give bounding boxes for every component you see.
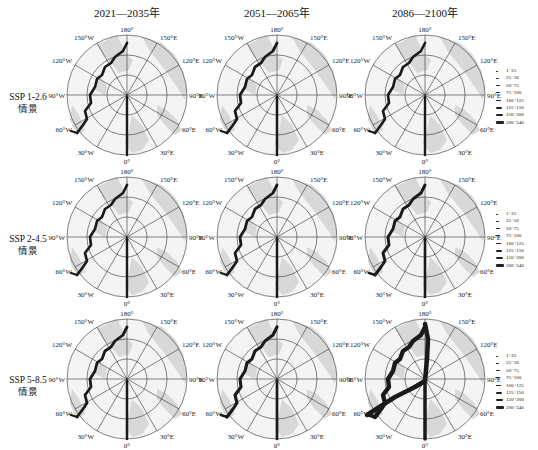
- tick-label-e150: 150°E: [160, 176, 178, 184]
- line-width-swatch-icon: [496, 383, 505, 388]
- line-width-swatch-icon: [496, 83, 505, 88]
- tick-label-w150: 150°W: [372, 176, 392, 184]
- legend-label: 75~100: [506, 89, 521, 96]
- tick-label-w60: 60°W: [206, 410, 223, 418]
- tick-label-w60: 60°W: [206, 268, 223, 276]
- legend-label: 75~100: [506, 374, 521, 381]
- tick-label-e150: 150°E: [458, 176, 476, 184]
- tick-label-w30: 30°W: [228, 433, 245, 441]
- tick-label-e150: 150°E: [458, 34, 476, 42]
- legend-label: 200~240: [506, 262, 524, 269]
- tick-label-t180: 180°: [270, 168, 284, 176]
- row-label-ssp585: SSP 5-8.5 情景: [0, 374, 56, 398]
- legend-label: 150~200: [506, 254, 524, 261]
- tick-label-e30: 30°E: [160, 433, 174, 441]
- column-title-3: 2086—2100年: [350, 4, 500, 20]
- row-label-line1: SSP 1-2.6: [0, 91, 56, 103]
- legend-label: 1~25: [506, 352, 516, 359]
- line-width-swatch-icon: [496, 241, 505, 246]
- polar-panel-r2-c2: 180° 150°E 120°E 90°E 60°E 30°E 0° 30°W …: [202, 162, 352, 312]
- line-width-swatch-icon: [496, 226, 505, 231]
- tick-label-w90: 90°W: [199, 234, 216, 242]
- legend-item: 100~125: [496, 382, 524, 389]
- tick-label-w150: 150°W: [224, 318, 244, 326]
- legend-label: 25~50: [506, 359, 519, 366]
- column-title-1: 2021—2035年: [52, 4, 202, 20]
- column-title-2: 2051—2065年: [202, 4, 352, 20]
- legend-label: 50~75: [506, 82, 519, 89]
- tick-label-w90: 90°W: [49, 234, 66, 242]
- tick-label-w90: 90°W: [49, 92, 66, 100]
- line-width-swatch-icon: [496, 353, 505, 358]
- tick-label-e120: 120°E: [480, 341, 498, 349]
- tick-label-w60: 60°W: [206, 126, 223, 134]
- legend-label: 125~150: [506, 389, 524, 396]
- tick-label-w150: 150°W: [74, 34, 94, 42]
- legend-item: 50~75: [496, 367, 524, 374]
- legend-item: 25~50: [496, 74, 524, 81]
- tick-label-t180: 180°: [270, 310, 284, 318]
- legend-label: 50~75: [506, 225, 519, 232]
- tick-label-w90: 90°W: [347, 92, 364, 100]
- legend-item: 1~25: [496, 67, 524, 74]
- row-label-ssp245: SSP 2-4.5 情景: [0, 233, 56, 257]
- tick-label-t180: 180°: [120, 310, 134, 318]
- line-width-swatch-icon: [496, 390, 505, 395]
- legend-label: 200~240: [506, 119, 524, 126]
- legend-item: 150~200: [496, 254, 524, 261]
- tick-label-e60: 60°E: [182, 410, 196, 418]
- tick-label-t180: 180°: [418, 310, 432, 318]
- tick-label-e120: 120°E: [332, 341, 350, 349]
- tick-label-e150: 150°E: [458, 318, 476, 326]
- tick-label-e60: 60°E: [182, 268, 196, 276]
- polar-panel-r2-c3: 180° 150°E 120°E 90°E 60°E 30°E 0° 30°W …: [350, 162, 500, 312]
- tick-label-e30: 30°E: [310, 291, 324, 299]
- legend-item: 100~125: [496, 240, 524, 247]
- tick-label-t180: 180°: [418, 26, 432, 34]
- polar-panel-r2-c1: 180° 150°E 120°E 90°E 60°E 30°E 0° 30°W …: [52, 162, 202, 312]
- tick-label-e30: 30°E: [160, 291, 174, 299]
- tick-label-e30: 30°E: [458, 433, 472, 441]
- line-width-swatch-icon: [496, 211, 505, 216]
- legend-label: 100~125: [506, 382, 524, 389]
- legend-item: 200~240: [496, 262, 524, 269]
- tick-label-w30: 30°W: [78, 149, 95, 157]
- legend-item: 125~150: [496, 247, 524, 254]
- legend-label: 125~150: [506, 247, 524, 254]
- tick-label-w30: 30°W: [376, 433, 393, 441]
- tick-label-w120: 120°W: [52, 57, 72, 65]
- tick-label-w30: 30°W: [376, 149, 393, 157]
- line-width-swatch-icon: [496, 398, 505, 403]
- tick-label-e60: 60°E: [332, 126, 346, 134]
- legend-item: 125~150: [496, 104, 524, 111]
- legend-label: 75~100: [506, 232, 521, 239]
- polar-panel-r3-c2: 180° 150°E 120°E 90°E 60°E 30°E 0° 30°W …: [202, 304, 352, 450]
- row-label-line2: 情景: [0, 103, 56, 115]
- legend-row-3: 1~2525~5050~7575~100100~125125~150150~20…: [496, 352, 524, 411]
- polar-map: 180° 150°E 120°E 90°E 60°E 30°E 0° 30°W …: [202, 20, 352, 170]
- legend-item: 75~100: [496, 374, 524, 381]
- tick-label-e120: 120°E: [480, 57, 498, 65]
- tick-label-w30: 30°W: [228, 291, 245, 299]
- tick-label-w120: 120°W: [202, 199, 222, 207]
- line-width-swatch-icon: [496, 76, 505, 81]
- tick-label-w90: 90°W: [347, 234, 364, 242]
- legend-item: 25~50: [496, 217, 524, 224]
- line-width-swatch-icon: [496, 375, 505, 380]
- polar-map: 180° 150°E 120°E 90°E 60°E 30°E 0° 30°W …: [350, 20, 500, 170]
- polar-map: 180° 150°E 120°E 90°E 60°E 30°E 0° 30°W …: [52, 162, 202, 312]
- tick-label-e150: 150°E: [310, 176, 328, 184]
- tick-label-w90: 90°W: [199, 376, 216, 384]
- legend-label: 25~50: [506, 217, 519, 224]
- tick-label-t180: 180°: [270, 26, 284, 34]
- legend-item: 75~100: [496, 89, 524, 96]
- polar-panel-r1-c2: 180° 150°E 120°E 90°E 60°E 30°E 0° 30°W …: [202, 20, 352, 170]
- line-width-swatch-icon: [496, 219, 505, 224]
- tick-label-w30: 30°W: [228, 149, 245, 157]
- polar-panel-r3-c1: 180° 150°E 120°E 90°E 60°E 30°E 0° 30°W …: [52, 304, 202, 450]
- row-label-ssp126: SSP 1-2.6 情景: [0, 91, 56, 115]
- tick-label-w150: 150°W: [224, 34, 244, 42]
- tick-label-e150: 150°E: [160, 318, 178, 326]
- polar-map: 180° 150°E 120°E 90°E 60°E 30°E 0° 30°W …: [202, 304, 352, 450]
- legend-item: 1~25: [496, 352, 524, 359]
